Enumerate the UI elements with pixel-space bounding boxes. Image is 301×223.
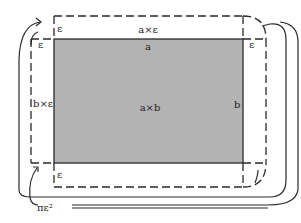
diagram-canvas: a×ε a b×ε a×b b ε ε ε ε πε²	[0, 0, 301, 223]
inner-rectangle	[54, 39, 243, 163]
right-side-label: b	[234, 99, 240, 110]
corner-tr-label: ε	[249, 39, 254, 50]
corner-bl-label: ε	[57, 169, 62, 180]
corners-total-label: πε²	[37, 202, 53, 213]
top-strip-label: a×ε	[138, 24, 158, 35]
corner-tl-left-label: ε	[38, 39, 43, 50]
left-strip-label: b×ε	[33, 98, 53, 109]
top-side-label: a	[145, 41, 151, 52]
corner-tl-top-label: ε	[57, 23, 62, 34]
center-label: a×b	[140, 102, 161, 113]
